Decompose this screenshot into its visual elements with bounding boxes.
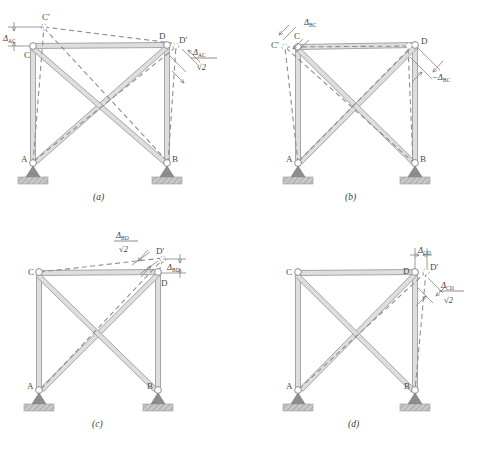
label-root2-c: √2 [119, 244, 129, 254]
panel-a-label-Dp: D' [179, 35, 187, 45]
panel-d-label-B: B [404, 381, 410, 391]
label-root2-d: √2 [444, 295, 454, 305]
panel-a: ΔAC ΔAC √2 C C' D D' A B (a) [2, 12, 217, 203]
panel-b: ΔBC −ΔBC C C' D A B (b) [271, 17, 450, 203]
panel-d-label-Dp: D' [430, 262, 438, 272]
panel-b-label-A: A [286, 154, 293, 164]
panel-d-label-A: A [286, 381, 293, 391]
panel-a-support-B [152, 166, 182, 184]
panel-c-deformed [40, 258, 163, 389]
panel-c-label-C: C [28, 267, 34, 277]
panel-a-members [30, 43, 170, 165]
panel-d-support-A [283, 393, 313, 411]
panel-a-label-C: C [24, 50, 30, 60]
panel-d-label-C: C [286, 267, 292, 277]
panel-c-support-A [24, 393, 54, 411]
panel-d-support-B [400, 393, 430, 411]
label-delta-bd: ΔBD [166, 262, 180, 273]
panel-c-label-D: D [161, 278, 168, 288]
panel-d-label-D: D [403, 266, 410, 276]
panel-a-label-A: A [21, 154, 28, 164]
label-delta-ac-num: ΔAC [192, 47, 206, 58]
label-root2-a: √2 [197, 62, 207, 72]
panel-a-support-A [18, 166, 48, 184]
panel-c-support-B [143, 393, 173, 411]
label-delta-cd: ΔCD [417, 245, 431, 256]
panel-b-label-C: C [294, 31, 300, 41]
label-delta-ac: ΔAC [2, 33, 16, 44]
panel-b-label-D: D [421, 36, 428, 46]
panel-d: ΔCD ΔCD √2 C D D' A B (d) [283, 245, 464, 430]
panel-a-label-B: B [172, 154, 178, 164]
panel-d-caption: (d) [348, 419, 359, 430]
panel-b-caption: (b) [345, 192, 356, 203]
panel-d-members [295, 270, 418, 393]
panel-a-label-D: D [159, 31, 166, 41]
panel-a-label-Cp: C' [42, 12, 50, 22]
panel-a-caption: (a) [93, 192, 104, 203]
panel-c-label-B: B [147, 381, 153, 391]
truss-figure: ΔAC ΔAC √2 C C' D D' A B (a) [0, 0, 481, 452]
panel-b-support-A [283, 166, 313, 184]
panel-b-label-B: B [420, 154, 426, 164]
panel-c-label-Dp: D' [156, 246, 164, 256]
panel-b-label-Cp: C' [271, 40, 279, 50]
panel-c: ΔBD √2 ΔBD C D D' A B (c) [24, 230, 186, 430]
label-delta-bd-num: ΔBD [115, 230, 129, 241]
panel-c-label-A: A [27, 381, 34, 391]
panel-b-support-B [400, 166, 430, 184]
panel-c-caption: (c) [92, 419, 103, 430]
label-delta-cd-num: ΔCD [440, 280, 454, 291]
label-delta-bc: ΔBC [303, 17, 317, 28]
label-neg-delta-bc: −ΔBC [432, 72, 450, 83]
